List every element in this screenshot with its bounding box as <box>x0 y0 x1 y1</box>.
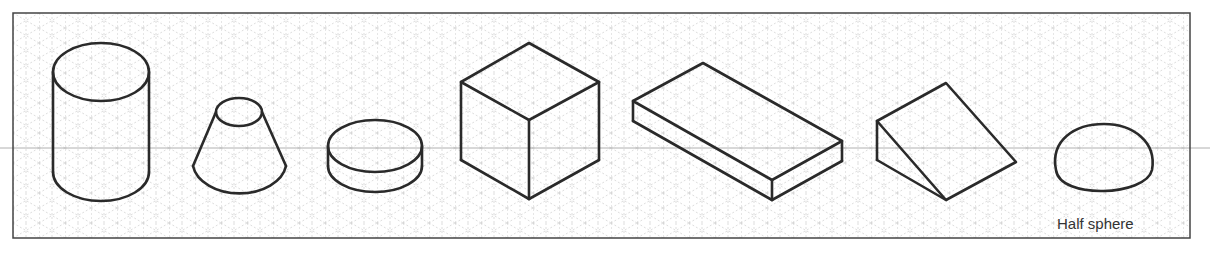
isometric-grid <box>13 13 1190 238</box>
half-sphere-label: Half sphere <box>1057 215 1134 232</box>
isometric-drawing: Half sphere <box>0 0 1210 255</box>
diagram-canvas <box>0 0 1210 255</box>
